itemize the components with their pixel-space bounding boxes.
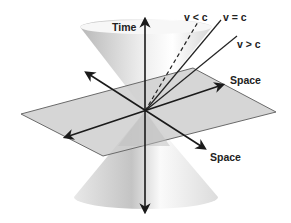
space-label-bottom: Space xyxy=(210,151,241,163)
time-label: Time xyxy=(112,21,136,33)
v-greater-c-label: v > c xyxy=(237,38,261,50)
v-equal-c-label: v = c xyxy=(223,11,247,23)
space-label-right: Space xyxy=(230,74,261,86)
v-less-c-label: v < c xyxy=(184,11,208,23)
light-cone-diagram: Time Space Space v < c v = c v > c xyxy=(0,0,291,223)
